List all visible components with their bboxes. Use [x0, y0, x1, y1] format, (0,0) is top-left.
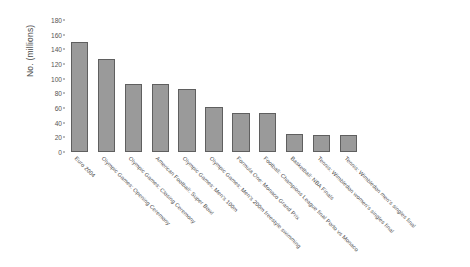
y-axis-tick-label: 160 — [22, 31, 62, 38]
x-axis-tick-label: Football: Champions League final Porto v… — [262, 156, 359, 253]
y-axis-tick-mark — [63, 93, 66, 94]
y-axis-tick-mark — [63, 49, 66, 50]
y-axis-tick-mark — [63, 137, 66, 138]
bar — [313, 135, 330, 152]
bar — [286, 134, 303, 152]
y-axis-tick-mark — [63, 78, 66, 79]
y-axis-tick-label: 120 — [22, 61, 62, 68]
bar — [178, 89, 195, 152]
y-axis-tick-mark — [63, 108, 66, 109]
bar — [340, 135, 357, 152]
bar — [71, 42, 88, 152]
bar — [152, 84, 169, 152]
y-axis-tick-label: 60 — [22, 105, 62, 112]
x-axis-tick-label: Olympic Games: Men's 100m — [181, 156, 238, 213]
bar-chart: No. (millions) 020406080100120140160180 … — [0, 0, 470, 267]
bars-layer — [66, 20, 362, 152]
y-axis-tick-mark — [63, 64, 66, 65]
y-axis-tick-label: 80 — [22, 90, 62, 97]
y-axis-tick-label: 40 — [22, 119, 62, 126]
bar — [259, 113, 276, 152]
y-axis-tick-mark — [63, 34, 66, 35]
y-axis-tick-mark — [63, 20, 66, 21]
bar — [125, 84, 142, 152]
y-axis-tick-label: 0 — [22, 149, 62, 156]
y-axis-tick-label: 180 — [22, 17, 62, 24]
x-axis-labels: Euro 2004Olympic Games: Opening Ceremony… — [66, 152, 362, 267]
y-axis-tick-label: 140 — [22, 46, 62, 53]
x-axis-tick-label: Euro 2004 — [73, 156, 96, 179]
y-axis-tick-label: 100 — [22, 75, 62, 82]
bar — [205, 107, 222, 152]
plot-area: 020406080100120140160180 — [66, 20, 362, 152]
bar — [232, 113, 249, 152]
y-axis-tick-mark — [63, 122, 66, 123]
y-axis-tick-mark — [63, 152, 66, 153]
y-axis-tick-label: 20 — [22, 134, 62, 141]
bar — [98, 59, 115, 152]
